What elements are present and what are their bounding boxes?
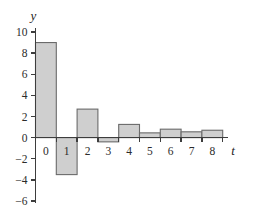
x-tick-label: 6	[168, 145, 174, 157]
chart-canvas: 1086420−2−4−6 012345678 y t	[0, 0, 255, 221]
bar-t0	[36, 43, 57, 138]
y-tick-label: 8	[22, 47, 28, 59]
x-tick-label: 0	[43, 145, 49, 157]
y-tick-label: −2	[15, 153, 27, 165]
axes-group	[32, 28, 229, 203]
bar-t6	[160, 129, 181, 137]
y-tick-label: −6	[15, 195, 27, 207]
x-tick-label: 3	[105, 145, 111, 157]
y-tick-label: 6	[22, 68, 28, 80]
x-tick-label: 8	[209, 145, 215, 157]
x-tick-label: 2	[85, 145, 91, 157]
x-tick-label: 5	[147, 145, 153, 157]
y-tick-label: 10	[16, 26, 28, 38]
x-tick-label: 4	[126, 145, 132, 157]
y-tick-labels: 1086420−2−4−6	[15, 26, 28, 207]
ticks-group	[31, 32, 223, 201]
y-axis-title: y	[29, 8, 37, 23]
bar-t8	[202, 130, 223, 137]
y-tick-label: −4	[15, 174, 27, 186]
bar-chart: 1086420−2−4−6 012345678 y t	[0, 0, 255, 221]
x-tick-label: 1	[64, 145, 70, 157]
y-tick-label: 2	[22, 111, 28, 123]
x-axis-title: t	[231, 143, 235, 158]
y-tick-label: 0	[22, 132, 28, 144]
x-tick-label: 7	[189, 145, 195, 157]
y-tick-label: 4	[22, 89, 28, 101]
x-tick-labels: 012345678	[43, 145, 215, 157]
bar-t4	[119, 124, 140, 137]
bar-t7	[181, 132, 202, 138]
bar-t2	[77, 109, 98, 138]
